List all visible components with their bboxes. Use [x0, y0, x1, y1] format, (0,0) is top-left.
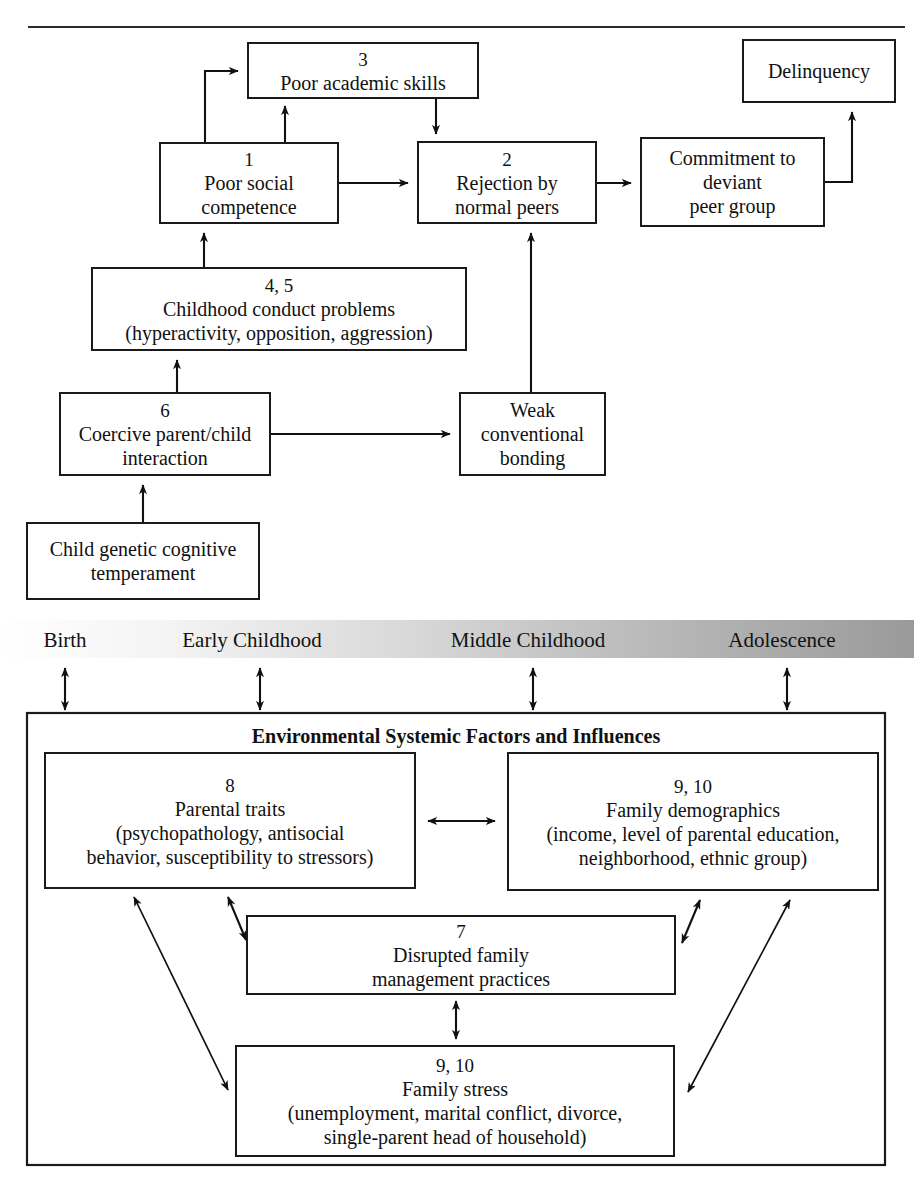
node-weak-conventional-bonding: Weakconventionalbonding [460, 393, 605, 475]
node-label-rejection-by-normal-peers-line-0: Rejection by [456, 172, 558, 195]
upper-model-nodes: 3Poor academic skillsDelinquency1Poor so… [27, 40, 895, 599]
node-label-parental-traits-line-1: (psychopathology, antisocial [116, 822, 345, 845]
node-number-parental-traits: 8 [225, 775, 235, 796]
node-label-commitment-to-deviant-peer-group-line-1: deviant [703, 171, 762, 193]
environmental-nodes: 8Parental traits(psychopathology, antiso… [45, 753, 878, 1156]
node-child-genetic-cognitive-temperament: Child genetic cognitivetemperament [27, 523, 259, 599]
node-number-coercive-parent-child-interaction: 6 [160, 400, 170, 421]
node-delinquency: Delinquency [743, 40, 895, 102]
node-label-rejection-by-normal-peers-line-1: normal peers [455, 196, 559, 219]
node-coercive-parent-child-interaction: 6Coercive parent/childinteraction [60, 393, 270, 475]
node-rejection-by-normal-peers: 2Rejection bynormal peers [418, 142, 596, 223]
arrow-commitment-to-delinquency [824, 112, 852, 182]
node-label-childhood-conduct-problems-line-0: Childhood conduct problems [163, 298, 395, 321]
node-box-family-demographics [508, 753, 878, 890]
node-label-family-demographics-line-2: neighborhood, ethnic group) [579, 847, 807, 870]
stage-label: Adolescence [728, 628, 835, 652]
node-number-poor-academic-skills: 3 [358, 49, 368, 70]
node-label-family-demographics-line-0: Family demographics [606, 799, 780, 822]
node-label-poor-academic-skills-line-0: Poor academic skills [280, 72, 446, 94]
node-label-weak-conventional-bonding-line-2: bonding [500, 447, 566, 470]
node-label-commitment-to-deviant-peer-group-line-2: peer group [689, 195, 775, 218]
stage-middle-childhood: Middle Childhood [451, 628, 606, 710]
node-parental-traits: 8Parental traits(psychopathology, antiso… [45, 753, 415, 888]
node-label-poor-social-competence-line-0: Poor social [204, 172, 294, 194]
node-label-child-genetic-cognitive-temperament-line-1: temperament [91, 562, 196, 585]
node-number-rejection-by-normal-peers: 2 [502, 149, 512, 170]
node-number-disrupted-family-management-practices: 7 [456, 921, 466, 942]
node-number-poor-social-competence: 1 [244, 149, 254, 170]
node-poor-academic-skills: 3Poor academic skills [248, 43, 478, 98]
node-number-family-stress: 9, 10 [436, 1055, 474, 1076]
node-commitment-to-deviant-peer-group: Commitment todeviantpeer group [641, 138, 824, 226]
arrow-parental-stress [134, 897, 228, 1090]
node-label-parental-traits-line-2: behavior, susceptibility to stressors) [87, 846, 374, 869]
node-label-weak-conventional-bonding-line-1: conventional [481, 423, 585, 445]
arrow-demographics-disrupted [682, 900, 700, 943]
node-label-delinquency-line-0: Delinquency [768, 60, 870, 83]
node-label-poor-social-competence-line-1: competence [201, 196, 297, 219]
node-poor-social-competence: 1Poor socialcompetence [160, 143, 338, 223]
node-label-family-stress-line-2: single-parent head of household) [324, 1126, 587, 1149]
node-disrupted-family-management-practices: 7Disrupted familymanagement practices [247, 916, 675, 994]
node-label-commitment-to-deviant-peer-group-line-0: Commitment to [669, 147, 795, 169]
node-family-stress: 9, 10Family stress(unemployment, marital… [236, 1046, 674, 1156]
node-label-family-stress-line-1: (unemployment, marital conflict, divorce… [288, 1102, 622, 1125]
node-label-parental-traits-line-0: Parental traits [175, 798, 286, 820]
node-label-weak-conventional-bonding-line-0: Weak [510, 399, 555, 421]
node-number-childhood-conduct-problems: 4, 5 [265, 275, 294, 296]
environmental-section-title: Environmental Systemic Factors and Influ… [252, 725, 661, 748]
arrow-parental-disrupted [228, 897, 246, 940]
stage-early-childhood: Early Childhood [182, 628, 322, 710]
arrow-social-to-academic-left [205, 71, 238, 143]
stage-adolescence: Adolescence [728, 628, 835, 710]
node-number-family-demographics: 9, 10 [674, 776, 712, 797]
node-label-family-demographics-line-1: (income, level of parental education, [546, 823, 839, 846]
stage-label: Middle Childhood [451, 628, 606, 652]
node-box-child-genetic-cognitive-temperament [27, 523, 259, 599]
stage-label: Birth [43, 628, 87, 652]
node-label-childhood-conduct-problems-line-1: (hyperactivity, opposition, aggression) [125, 322, 433, 345]
developmental-model-diagram: Environmental Systemic Factors and Influ… [0, 0, 914, 1190]
stage-label: Early Childhood [182, 628, 322, 652]
node-box-parental-traits [45, 753, 415, 888]
node-childhood-conduct-problems: 4, 5Childhood conduct problems(hyperacti… [92, 268, 466, 350]
node-label-disrupted-family-management-practices-line-1: management practices [372, 968, 550, 991]
node-label-child-genetic-cognitive-temperament-line-0: Child genetic cognitive [50, 538, 237, 561]
node-family-demographics: 9, 10Family demographics(income, level o… [508, 753, 878, 890]
nodes-layer: 3Poor academic skillsDelinquency1Poor so… [27, 40, 895, 1156]
arrow-demographics-stress [688, 900, 790, 1092]
node-label-coercive-parent-child-interaction-line-1: interaction [122, 447, 208, 469]
node-label-family-stress-line-0: Family stress [402, 1078, 508, 1101]
stage-birth: Birth [43, 628, 87, 710]
node-label-coercive-parent-child-interaction-line-0: Coercive parent/child [79, 423, 252, 446]
node-label-disrupted-family-management-practices-line-0: Disrupted family [393, 944, 529, 967]
